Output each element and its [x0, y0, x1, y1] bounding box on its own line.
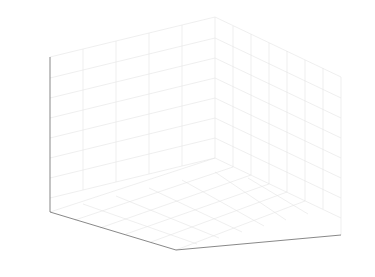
grid — [50, 17, 341, 250]
shaft-force-diagram — [0, 0, 375, 277]
axes — [50, 57, 341, 250]
